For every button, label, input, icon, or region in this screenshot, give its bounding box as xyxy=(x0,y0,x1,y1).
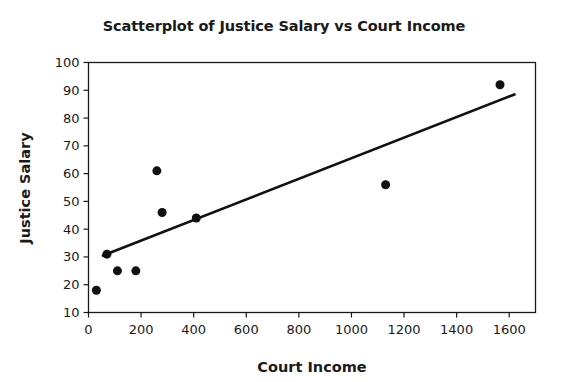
y-tick-label: 60 xyxy=(63,166,80,181)
x-tick-label: 1000 xyxy=(335,322,368,337)
trendline-group xyxy=(103,94,515,255)
data-point xyxy=(381,180,390,189)
x-tick-label: 200 xyxy=(129,322,154,337)
data-point xyxy=(113,266,122,275)
y-axis-ticks: 102030405060708090100 xyxy=(55,55,89,320)
x-axis-title: Court Income xyxy=(257,359,366,375)
data-point xyxy=(192,214,201,223)
y-tick-label: 90 xyxy=(63,83,80,98)
y-tick-label: 20 xyxy=(63,277,80,292)
x-tick-label: 800 xyxy=(286,322,311,337)
x-tick-label: 400 xyxy=(181,322,206,337)
x-tick-label: 1400 xyxy=(440,322,473,337)
y-tick-label: 50 xyxy=(63,194,80,209)
data-point xyxy=(496,80,505,89)
data-point xyxy=(102,250,111,259)
y-tick-label: 30 xyxy=(63,249,80,264)
plot-frame xyxy=(89,63,536,313)
plot-area-svg: 102030405060708090100 020040060080010001… xyxy=(0,0,568,382)
data-point xyxy=(131,266,140,275)
y-axis-title: Justice Salary xyxy=(17,132,33,245)
x-tick-label: 1200 xyxy=(387,322,420,337)
x-axis-ticks: 02004006008001000120014001600 xyxy=(84,313,525,337)
y-tick-label: 10 xyxy=(63,305,80,320)
y-tick-label: 40 xyxy=(63,222,80,237)
y-tick-label: 70 xyxy=(63,138,80,153)
x-tick-label: 0 xyxy=(84,322,92,337)
data-point xyxy=(152,166,161,175)
y-tick-label: 80 xyxy=(63,111,80,126)
data-point xyxy=(92,286,101,295)
data-point xyxy=(158,208,167,217)
trendline xyxy=(103,94,515,255)
y-tick-label: 100 xyxy=(55,55,80,70)
x-tick-label: 1600 xyxy=(493,322,526,337)
data-points-group xyxy=(92,80,505,295)
scatterplot-figure: Scatterplot of Justice Salary vs Court I… xyxy=(0,0,568,382)
x-tick-label: 600 xyxy=(234,322,259,337)
